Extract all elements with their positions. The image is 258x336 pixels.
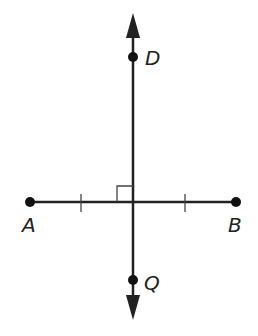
label-a: A — [20, 213, 36, 237]
point-b — [231, 197, 241, 207]
label-b: B — [228, 213, 242, 237]
point-d — [128, 52, 138, 62]
label-q: Q — [144, 271, 160, 295]
label-d: D — [145, 46, 160, 70]
arrow-up-icon — [126, 13, 140, 38]
point-a — [25, 197, 35, 207]
geometry-diagram: A B D Q — [0, 0, 258, 336]
arrow-down-icon — [126, 295, 140, 320]
right-angle-mark — [117, 186, 133, 202]
point-q — [128, 275, 138, 285]
